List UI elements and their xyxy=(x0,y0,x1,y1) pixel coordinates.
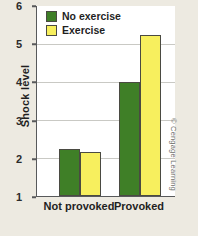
legend-item-exercise: Exercise xyxy=(46,25,121,36)
y-tick-label-2: 2 xyxy=(0,154,22,165)
legend-label-exercise: Exercise xyxy=(62,25,105,36)
y-tick-label-6: 6 xyxy=(0,1,22,12)
bar-not-provoked-no-exercise xyxy=(59,149,80,197)
y-tick-label-4: 4 xyxy=(0,77,22,88)
x-tick-label-not-provoked: Not provoked xyxy=(44,200,115,212)
legend-label-no-exercise: No exercise xyxy=(62,11,121,22)
y-tick-label-3: 3 xyxy=(0,116,22,127)
bar-chart-figure: Shock level 6 5 4 3 2 1 Not provoked Pro… xyxy=(0,0,198,236)
legend-item-no-exercise: No exercise xyxy=(46,11,121,22)
bar-provoked-exercise xyxy=(140,35,161,197)
y-tick-label-1: 1 xyxy=(0,192,22,203)
x-tick-label-provoked: Provoked xyxy=(114,200,164,212)
legend: No exercise Exercise xyxy=(46,11,121,36)
bar-provoked-no-exercise xyxy=(119,82,140,196)
green-swatch-icon xyxy=(46,11,57,22)
bar-not-provoked-exercise xyxy=(80,152,101,196)
y-tick-label-5: 5 xyxy=(0,39,22,50)
yellow-swatch-icon xyxy=(46,25,57,36)
copyright-credit: © Cengage Learning xyxy=(169,118,178,191)
